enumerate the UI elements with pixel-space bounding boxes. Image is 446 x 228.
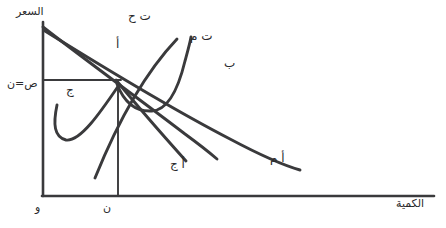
point-label-jeem: ج <box>66 84 74 96</box>
price-level-label: ص=ن <box>7 78 38 89</box>
curve-label-average-m: أ م <box>270 152 285 164</box>
curve-label-average-j: أ ج <box>170 158 185 170</box>
x-axis-label: الكمية <box>396 198 424 209</box>
point-label-ba: ب <box>224 57 235 69</box>
curve-cost-u-right <box>117 37 191 111</box>
origin-label: و <box>35 202 40 213</box>
curve-label-total-revenue-h: ت ح <box>128 10 151 22</box>
curve-label-total-cost-m: ت م <box>190 30 213 42</box>
figure-drawing <box>0 0 446 228</box>
y-axis-label: السعر <box>16 6 44 17</box>
point-label-alef: أ <box>116 38 119 50</box>
economics-figure: السعر الكمية ص=ن و ن ت ح ت م أ ب ج أ ج أ… <box>0 0 446 228</box>
curve-cost-u-left <box>55 85 119 140</box>
quantity-tick-label: ن <box>103 202 111 213</box>
curve-total-cost-m <box>45 31 300 170</box>
